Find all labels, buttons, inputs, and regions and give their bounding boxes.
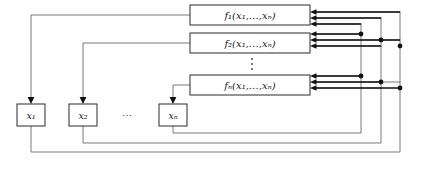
input-arrows-f1	[310, 9, 400, 27]
input-arrowhead-fn-row3	[310, 85, 317, 91]
output-path-f1-to-x1	[28, 15, 190, 104]
variable-box-xn[interactable]: xₙ	[159, 104, 187, 126]
vertical-ellipsis	[251, 58, 253, 70]
variable-box-x1-label: x₁	[26, 110, 35, 121]
input-arrowhead-f1-row1	[310, 9, 317, 15]
input-arrow-group	[310, 9, 402, 91]
output-arrowhead-x2	[80, 97, 87, 104]
output-path-fn-to-xn	[170, 85, 190, 104]
variable-box-xn-label: xₙ	[168, 110, 177, 121]
junction-dot-6	[398, 86, 403, 91]
junction-dot-4	[359, 74, 364, 79]
junction-dot-2	[379, 38, 384, 43]
vertical-ellipsis-dot-2	[251, 63, 253, 65]
output-line-f2	[83, 43, 190, 98]
output-arrowhead-x1	[28, 97, 35, 104]
horizontal-ellipsis: ⋯	[122, 110, 133, 121]
junction-dot-1	[359, 32, 364, 37]
input-arrowhead-f2-row1	[310, 31, 317, 37]
input-arrowhead-fn-row2	[310, 79, 317, 85]
vertical-ellipsis-dot-3	[251, 68, 253, 70]
output-line-fn	[173, 85, 190, 98]
input-arrowhead-f2-row3	[310, 43, 317, 49]
variable-box-x2-label: x₂	[78, 110, 87, 121]
function-box-f1[interactable]: f₁(x₁,…,xₙ)	[190, 5, 310, 25]
vertical-ellipsis-dot-1	[251, 58, 253, 60]
input-arrows-f2	[310, 31, 400, 49]
input-arrowhead-fn-row1	[310, 73, 317, 79]
function-box-fn[interactable]: fₙ(x₁,…,xₙ)	[190, 75, 310, 95]
junction-dot-5	[379, 80, 384, 85]
diagram-canvas: f₁(x₁,…,xₙ) f₂(x₁,…,xₙ) fₙ(x₁,…,xₙ) x₁ x…	[0, 0, 424, 169]
input-arrowhead-f1-row3	[310, 21, 317, 27]
function-box-f2-label: f₂(x₁,…,xₙ)	[223, 38, 275, 49]
output-arrowhead-xn	[170, 97, 177, 104]
function-box-f1-label: f₁(x₁,…,xₙ)	[223, 10, 275, 21]
input-arrowhead-f2-row2	[310, 37, 317, 43]
output-path-group	[28, 15, 190, 104]
function-box-f2[interactable]: f₂(x₁,…,xₙ)	[190, 33, 310, 53]
junction-dot-3	[398, 44, 403, 49]
input-arrowhead-f1-row2	[310, 15, 317, 21]
variable-box-x1[interactable]: x₁	[17, 104, 45, 126]
feedback-network-diagram: f₁(x₁,…,xₙ) f₂(x₁,…,xₙ) fₙ(x₁,…,xₙ) x₁ x…	[0, 0, 424, 169]
output-line-f1	[31, 15, 190, 98]
variable-box-x2[interactable]: x₂	[69, 104, 97, 126]
function-box-fn-label: fₙ(x₁,…,xₙ)	[223, 80, 275, 91]
